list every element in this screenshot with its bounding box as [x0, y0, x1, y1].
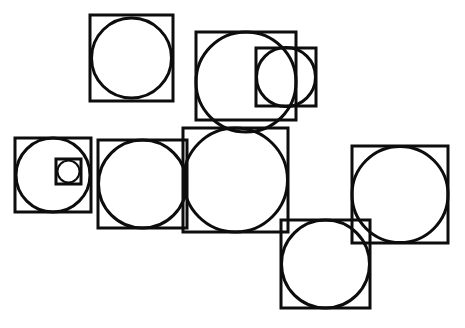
- figure-canvas: [0, 0, 465, 328]
- shape-cluster-diagram: [0, 0, 465, 328]
- canvas-background: [0, 0, 465, 328]
